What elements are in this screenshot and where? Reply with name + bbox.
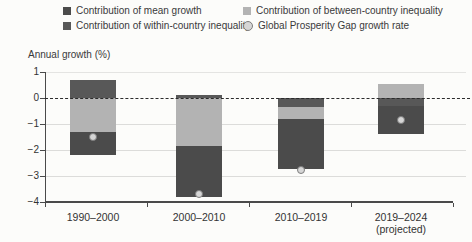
- y-tick-label: 1: [21, 67, 39, 77]
- y-axis-tick: [40, 150, 45, 151]
- x-axis-tick: [45, 203, 46, 207]
- gridline-1: [45, 72, 466, 73]
- bar-segment: [70, 80, 116, 98]
- chart-plot-area: 10−1−2−3−41990–20002000–20102010–2019201…: [0, 0, 472, 242]
- x-axis-tick: [147, 203, 148, 207]
- x-category-label: 1990–2000: [43, 211, 143, 223]
- x-category-label: 2010–2019: [251, 211, 351, 223]
- y-axis-tick: [40, 72, 45, 73]
- y-tick-label: −2: [21, 145, 39, 155]
- y-tick-label: 0: [21, 93, 39, 103]
- x-category-label: 2000–2010: [149, 211, 249, 223]
- y-axis-tick: [40, 176, 45, 177]
- bar-segment: [378, 98, 424, 106]
- x-category-sublabel: (projected): [351, 223, 451, 235]
- bar-segment: [70, 98, 116, 132]
- bar-segment: [378, 84, 424, 98]
- x-category-label: 2019–2024: [351, 211, 451, 223]
- bar-segment: [278, 119, 324, 170]
- growth-rate-marker: [195, 190, 203, 198]
- growth-rate-marker: [89, 133, 97, 141]
- gridline--3: [45, 176, 466, 177]
- y-axis-tick: [40, 124, 45, 125]
- y-tick-label: −1: [21, 119, 39, 129]
- x-axis-tick: [453, 203, 454, 207]
- zero-dashed-line: [45, 98, 470, 99]
- y-tick-label: −3: [21, 171, 39, 181]
- bar-segment: [176, 146, 222, 197]
- x-axis-tick: [249, 203, 250, 207]
- growth-rate-marker: [297, 166, 305, 174]
- y-axis-line: [45, 72, 46, 202]
- x-axis-tick: [351, 203, 352, 207]
- bar-segment: [176, 98, 222, 146]
- y-tick-label: −4: [21, 197, 39, 207]
- bar-segment: [278, 98, 324, 107]
- bar-segment: [278, 107, 324, 119]
